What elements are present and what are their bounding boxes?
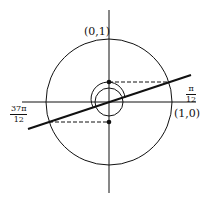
label-angle-pi-over-12: π 12 (186, 85, 196, 104)
fraction-denominator: 12 (186, 95, 196, 104)
label-right-point: (1,0) (174, 108, 200, 119)
fraction-numerator: 37π (10, 105, 27, 115)
fraction-denominator: 12 (10, 115, 27, 124)
label-angle-37pi-over-12: 37π 12 (10, 105, 27, 124)
point-sine-negative (107, 120, 112, 125)
fraction-numerator: π (186, 85, 196, 95)
label-top-point: (0,1) (84, 26, 110, 37)
point-sine-positive (107, 80, 112, 85)
